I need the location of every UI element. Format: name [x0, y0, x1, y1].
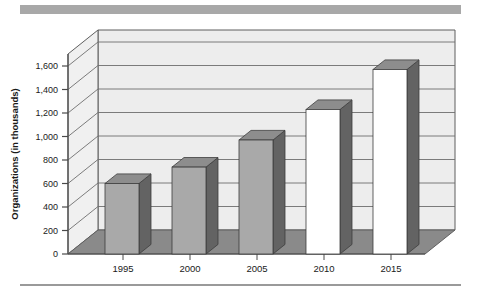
bar-chart-plot: 0 200 400 600 800 1,000 1,200 1,400 1,60…	[0, 16, 481, 284]
x-tick-label: 2005	[246, 263, 267, 274]
chart-figure: 0 200 400 600 800 1,000 1,200 1,400 1,60…	[0, 0, 481, 293]
bar-side-face	[340, 100, 352, 254]
bar-2005[interactable]	[239, 130, 285, 254]
y-tick-labels: 0 200 400 600 800 1,000 1,200 1,400 1,60…	[35, 61, 58, 259]
bar-side-face	[139, 174, 151, 254]
y-tick-label: 0	[53, 249, 58, 259]
y-tick-label: 600	[43, 179, 58, 189]
chart-left-wall	[68, 30, 98, 254]
bar-front-face	[306, 110, 340, 255]
y-tick-label: 1,200	[35, 108, 58, 118]
bar-2015[interactable]	[373, 60, 419, 254]
x-tick-label: 2000	[179, 263, 200, 274]
y-tick-label: 1,400	[35, 85, 58, 95]
bar-side-face	[407, 60, 419, 254]
bar-side-face	[273, 130, 285, 254]
bar-2000[interactable]	[172, 158, 218, 255]
y-tick-label: 800	[43, 155, 58, 165]
y-axis	[62, 54, 68, 254]
y-tick-label: 1,000	[35, 132, 58, 142]
bar-front-face	[172, 167, 206, 254]
x-tick-label: 2010	[313, 263, 334, 274]
bar-front-face	[105, 184, 139, 255]
y-tick-label: 400	[43, 202, 58, 212]
y-tick-label: 200	[43, 226, 58, 236]
bar-front-face	[373, 70, 407, 255]
y-axis-title: Organizations (in thousands)	[9, 88, 20, 219]
x-axis	[68, 254, 425, 260]
bar-2010[interactable]	[306, 100, 352, 254]
x-tick-labels: 1995 2000 2005 2010 2015	[112, 263, 401, 274]
bar-front-face	[239, 140, 273, 254]
x-tick-label: 1995	[112, 263, 133, 274]
y-tick-label: 1,600	[35, 61, 58, 71]
x-tick-label: 2015	[380, 263, 401, 274]
bar-1995[interactable]	[105, 174, 151, 254]
bar-side-face	[206, 158, 218, 255]
top-decorative-rule	[20, 5, 461, 14]
bottom-decorative-rule	[20, 284, 461, 286]
